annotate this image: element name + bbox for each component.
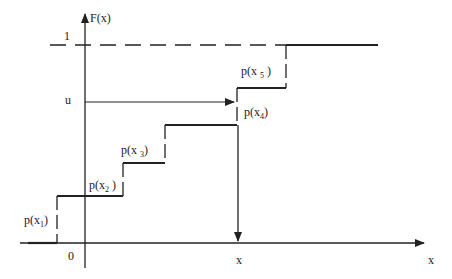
- step-label-5: p(x 5 ): [241, 64, 271, 80]
- cdf-diagram: F(x) 1 u 0 x x p(x1) p(x2 ) p(x 3) p(x4)…: [0, 0, 452, 279]
- one-label: 1: [64, 29, 70, 43]
- origin-label: 0: [68, 249, 74, 263]
- step-label-1: p(x1): [24, 213, 48, 229]
- sampled-x-label: x: [236, 253, 242, 267]
- step-label-3: p(x 3): [121, 143, 148, 159]
- u-label: u: [65, 93, 71, 107]
- x-axis-label: x: [428, 253, 434, 267]
- step-label-2: p(x2 ): [89, 178, 116, 194]
- step-label-4: p(x4): [244, 105, 268, 121]
- y-axis-label: F(x): [90, 11, 111, 25]
- cdf-steps: [28, 45, 378, 243]
- cdf-svg: F(x) 1 u 0 x x p(x1) p(x2 ) p(x 3) p(x4)…: [0, 0, 452, 279]
